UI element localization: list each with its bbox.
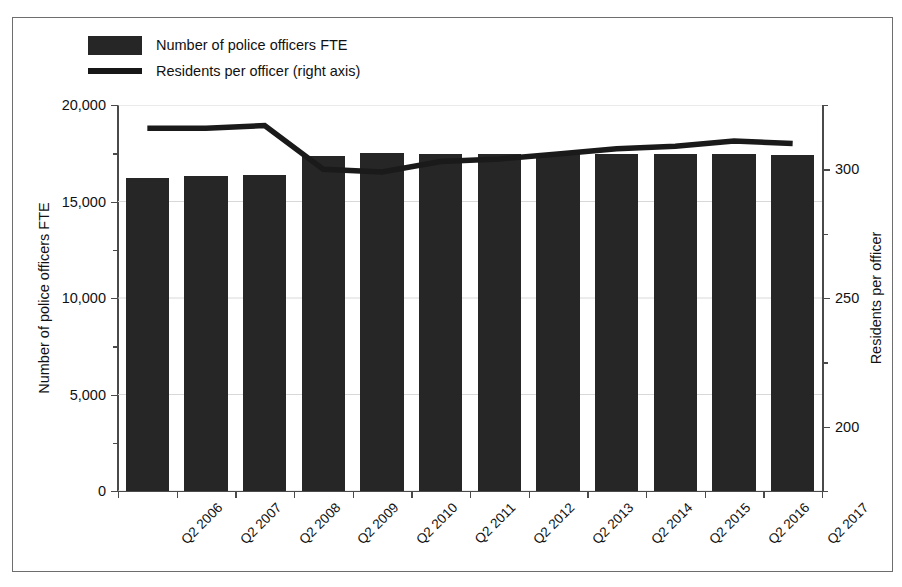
- chart-canvas: Number of police officers FTE Residents …: [0, 0, 902, 587]
- x-axis-label-q2-2008: Q2 2008: [296, 500, 343, 547]
- x-axis-label-q2-2012: Q2 2012: [530, 500, 577, 547]
- x-axis-label-q2-2010: Q2 2010: [413, 500, 460, 547]
- x-axis-label-q2-2016: Q2 2016: [765, 500, 812, 547]
- x-axis-label-q2-2011: Q2 2011: [472, 500, 519, 547]
- x-axis-label-q2-2014: Q2 2014: [648, 500, 695, 547]
- x-axis-label-q2-2009: Q2 2009: [354, 500, 401, 547]
- x-axis-label-q2-2013: Q2 2013: [589, 500, 636, 547]
- x-axis-label-q2-2017: Q2 2017: [824, 500, 871, 547]
- x-axis-labels: Q2 2006Q2 2007Q2 2008Q2 2009Q2 2010Q2 20…: [0, 0, 902, 587]
- x-axis-label-q2-2007: Q2 2007: [237, 500, 284, 547]
- x-axis-label-q2-2006: Q2 2006: [178, 500, 225, 547]
- x-axis-label-q2-2015: Q2 2015: [706, 500, 753, 547]
